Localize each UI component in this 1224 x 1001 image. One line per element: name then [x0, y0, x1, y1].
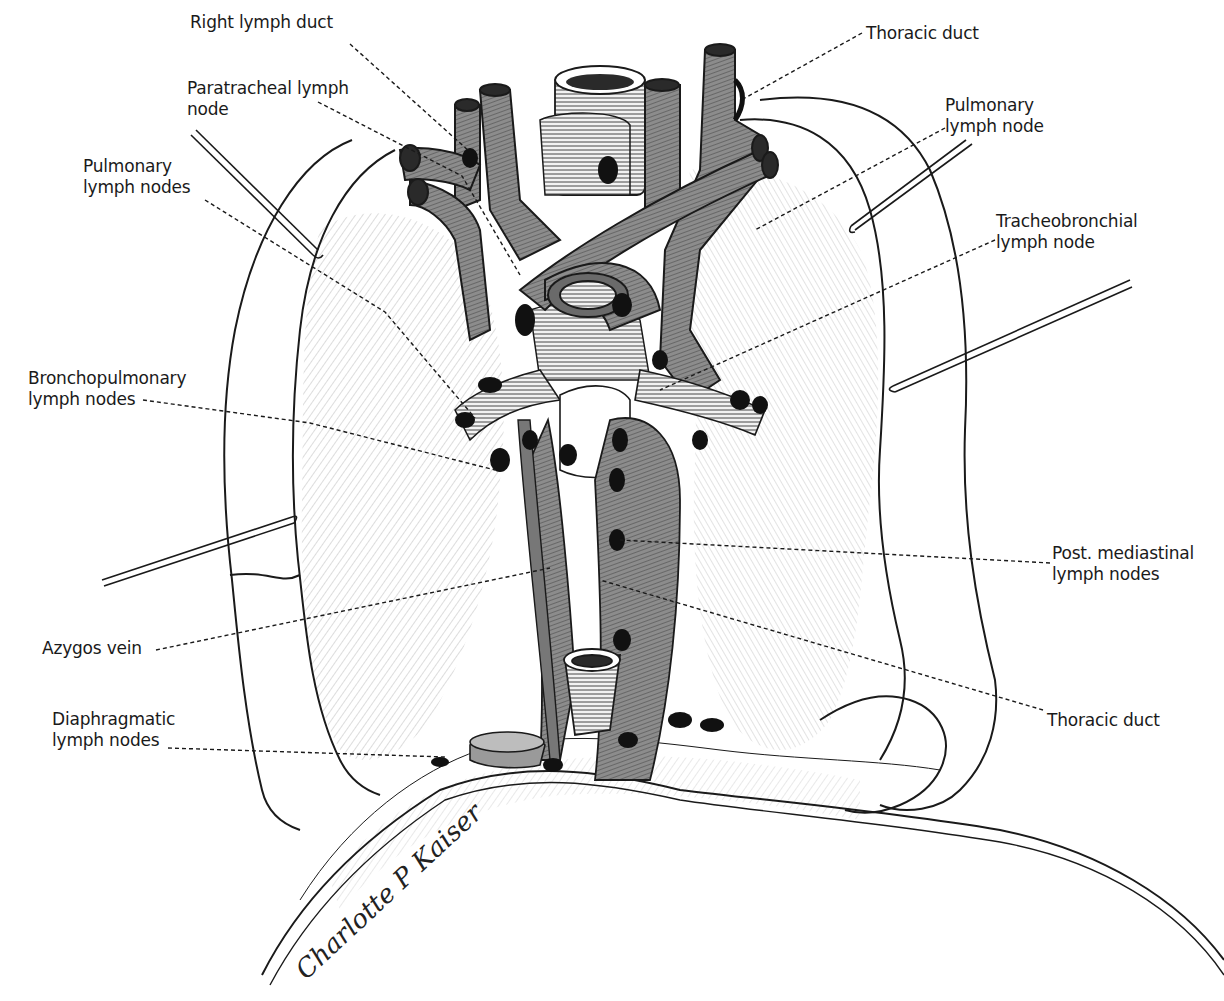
thoracic-duct-loop: [735, 80, 743, 120]
label-bronchopulmonary-lymph-nodes: Bronchopulmonary lymph nodes: [28, 368, 186, 410]
retractor-upper-left: [191, 130, 323, 258]
label-tracheobronchial-lymph-node: Tracheobronchial lymph node: [996, 211, 1138, 253]
label-right-lymph-duct: Right lymph duct: [190, 12, 333, 33]
esophagus-cut-lower: [564, 649, 620, 735]
label-post-mediastinal-lymph-nodes: Post. mediastinal lymph nodes: [1052, 543, 1194, 585]
leader-diaphragmatic-lymph-nodes: [168, 748, 445, 757]
leader-thoracic-duct-top: [745, 33, 862, 98]
retractor-upper-right: [850, 140, 972, 232]
right-lung-tissue: [687, 168, 878, 750]
label-azygos-vein: Azygos vein: [42, 638, 142, 659]
ivc-cut: [470, 732, 545, 768]
label-diaphragmatic-lymph-nodes: Diaphragmatic lymph nodes: [52, 709, 175, 751]
label-paratracheal-lymph-node: Paratracheal lymph node: [187, 78, 349, 120]
retractor-right: [889, 280, 1132, 392]
anatomy-illustration: [0, 0, 1224, 1001]
leader-right-lymph-duct: [350, 44, 470, 152]
label-thoracic-duct-top: Thoracic duct: [866, 23, 979, 44]
label-thoracic-duct-bottom: Thoracic duct: [1047, 710, 1160, 731]
label-pulmonary-lymph-node-right: Pulmonary lymph node: [945, 95, 1044, 137]
label-pulmonary-lymph-nodes-left: Pulmonary lymph nodes: [83, 156, 190, 198]
leader-pulmonary-lymph-node-right: [755, 128, 945, 230]
